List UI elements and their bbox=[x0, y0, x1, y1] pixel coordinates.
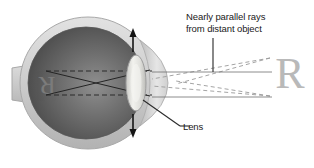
inverted-r-on-retina: R bbox=[38, 71, 56, 100]
external-dashed-rays bbox=[152, 58, 272, 97]
distant-object-letter: R bbox=[275, 49, 305, 98]
svg-text:R: R bbox=[38, 71, 56, 100]
svg-text:R: R bbox=[275, 49, 305, 98]
eye-diagram-figure: R bbox=[0, 0, 314, 168]
rays-caption-line-2: from distant object bbox=[186, 23, 265, 35]
lens-label: Lens bbox=[183, 121, 203, 133]
rays-caption: Nearly parallel rays from distant object bbox=[186, 11, 265, 34]
eye-diagram-canvas: R bbox=[0, 0, 314, 168]
rays-caption-line-1: Nearly parallel rays bbox=[186, 11, 265, 23]
crystalline-lens bbox=[126, 55, 146, 111]
